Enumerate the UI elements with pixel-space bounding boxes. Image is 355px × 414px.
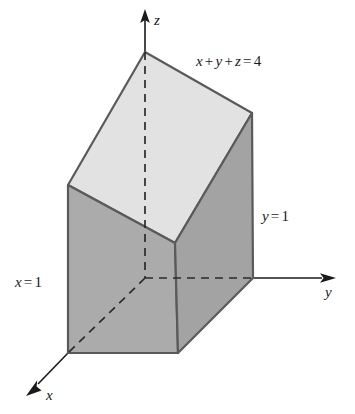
solid-body <box>68 52 253 353</box>
solid-figure-svg <box>0 0 355 414</box>
x-axis-line <box>38 353 68 384</box>
face-left-value: 1 <box>35 274 43 290</box>
face-left-equals: = <box>22 274 35 290</box>
plane-equation-label: x+y+z=4 <box>196 54 261 69</box>
face-left-var: x <box>15 274 22 290</box>
x-axis-label: x <box>46 388 53 403</box>
z-axis-label: z <box>154 13 160 28</box>
face-right-label: y=1 <box>262 209 289 224</box>
figure-container: z y x x+y+z=4 y=1 x=1 <box>0 0 355 414</box>
face-right-equals: = <box>269 208 282 224</box>
plane-plus-2: + <box>222 53 235 69</box>
y-axis-label: y <box>325 285 332 300</box>
face-right-var: y <box>262 208 269 224</box>
plane-rhs-value: 4 <box>254 53 262 69</box>
face-right-value: 1 <box>282 208 290 224</box>
face-left-label: x=1 <box>15 275 42 290</box>
y-axis-arrowhead <box>320 273 336 283</box>
plane-plus-1: + <box>203 53 216 69</box>
plane-equals: = <box>241 53 254 69</box>
plane-term-x: x <box>196 53 203 69</box>
